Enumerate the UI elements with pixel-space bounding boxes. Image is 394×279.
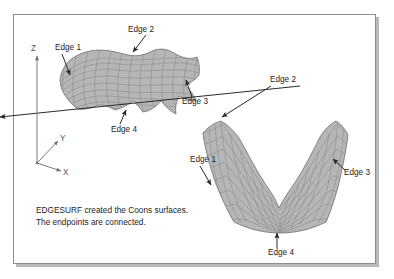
label-edge-1-right: Edge 1 bbox=[190, 155, 216, 164]
z-axis-label: Z bbox=[31, 44, 36, 53]
wavy-coons-surface bbox=[59, 48, 200, 117]
caption-line-1: EDGESURF created the Coons surfaces. bbox=[36, 205, 188, 217]
label-edge-1-left: Edge 1 bbox=[55, 43, 81, 52]
y-axis-label: Y bbox=[60, 134, 66, 143]
figure-page: Edge 1 Edge 2 Edge 3 Edge 4 bbox=[0, 0, 394, 279]
arrow-edge-1-right bbox=[200, 166, 211, 185]
label-edge-3-left: Edge 3 bbox=[182, 97, 208, 106]
arrow-edge-2-left bbox=[133, 35, 146, 52]
wavy-surface-fill bbox=[60, 49, 199, 114]
label-edge-3-right: Edge 3 bbox=[344, 168, 370, 177]
label-edge-2-right: Edge 2 bbox=[270, 75, 296, 84]
x-axis-arrow bbox=[37, 163, 61, 171]
label-edge-4-right: Edge 4 bbox=[268, 248, 294, 257]
caption-line-2: The endpoints are connected. bbox=[36, 217, 188, 229]
y-axis-arrow bbox=[37, 141, 58, 163]
arrow-edge-2-right-left bbox=[222, 86, 271, 117]
label-edge-4-left: Edge 4 bbox=[111, 125, 137, 134]
figure-caption: EDGESURF created the Coons surfaces. The… bbox=[36, 205, 188, 228]
figure-canvas: Edge 1 Edge 2 Edge 3 Edge 4 bbox=[0, 0, 394, 279]
ucs-origin-dot bbox=[36, 162, 38, 164]
arrow-edge-4-left bbox=[120, 110, 126, 124]
label-edge-2-left: Edge 2 bbox=[128, 25, 154, 34]
x-axis-label: X bbox=[63, 168, 69, 177]
vee-coons-surface bbox=[202, 121, 349, 233]
